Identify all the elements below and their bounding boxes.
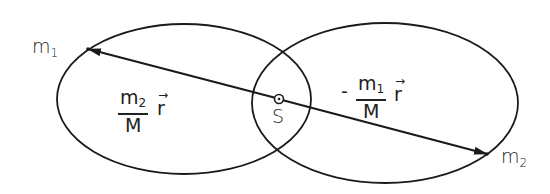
- diagram-canvas: [0, 0, 550, 194]
- m1-point: [86, 47, 90, 51]
- m1-label-base: m: [32, 35, 51, 57]
- orbit-m1-ellipse: [57, 24, 311, 174]
- m1-label: m1: [32, 35, 58, 60]
- fraction-numerator: m1: [356, 73, 386, 99]
- center-of-mass-dot-icon: [278, 98, 281, 101]
- vector-m1-fraction: m2 M: [118, 87, 148, 135]
- vector-s-to-m1-arrow: [88, 49, 276, 98]
- m2-label: m2: [501, 145, 527, 170]
- vector-arrow-icon: →: [395, 74, 405, 88]
- numerator-subscript: 2: [139, 96, 147, 110]
- fraction-numerator: m2: [118, 87, 148, 113]
- negative-sign: -: [341, 80, 348, 102]
- vector-m1-symbol: →r: [157, 97, 165, 119]
- center-of-mass-label: S: [272, 105, 284, 127]
- vector-arrow-icon: →: [158, 88, 168, 102]
- numerator-subscript: 1: [377, 82, 385, 96]
- vector-m2-symbol: →r: [394, 83, 402, 105]
- m2-label-base: m: [501, 145, 520, 167]
- vector-m2-fraction: m1 M: [356, 73, 386, 121]
- fraction-denominator: M: [363, 101, 379, 121]
- m1-label-subscript: 1: [51, 46, 59, 60]
- numerator-base: m: [358, 72, 377, 94]
- m2-point: [485, 152, 489, 156]
- numerator-base: m: [120, 86, 139, 108]
- m2-label-subscript: 2: [520, 156, 528, 170]
- fraction-denominator: M: [125, 115, 141, 135]
